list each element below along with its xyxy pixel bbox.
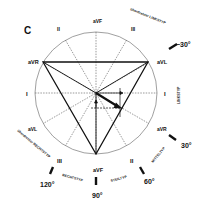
angle-minus30: −30°: [176, 41, 191, 48]
type-mitteltyp: MITTELTYP: [151, 146, 167, 164]
type-steiltyp: STEILTYP: [110, 175, 128, 183]
lead-ii-bottom: II: [130, 158, 134, 164]
lead-iii-bottom: III: [57, 158, 62, 164]
lead-avr: aVR: [28, 59, 39, 65]
lead-i-left: I: [26, 91, 28, 97]
cabrera-circle-diagram: C aVF II III aVR aVL I I aVL aVR III aVF…: [0, 0, 205, 214]
type-rechtstyp: RECHTSTYP: [62, 173, 84, 183]
lead-avl: aVL: [157, 59, 168, 65]
angle-120: 120°: [40, 181, 55, 188]
type-ueberdrehter-rechtstyp: überdrehter RECHTSTYP: [16, 129, 51, 159]
lead-ii-top: II: [57, 26, 60, 32]
lead-avf-top: aVF: [93, 18, 102, 24]
lead-iii-top: III: [131, 26, 136, 32]
angle-30: 30°: [181, 142, 192, 149]
angle-90: 90°: [92, 192, 103, 199]
type-ueberdrehter-linkstyp: überdrehter LINKSTYP: [130, 7, 167, 25]
lead-avf-bottom: aVF: [93, 167, 104, 173]
panel-label: C: [24, 25, 31, 36]
lead-i-right: I: [164, 91, 166, 97]
lead-avr-bottom: aVR: [157, 126, 167, 132]
type-linkstyp: LINKSTYP: [177, 86, 181, 104]
lead-avl-bottom: aVL: [28, 126, 37, 132]
angle-60: 60°: [144, 178, 155, 185]
angle-ticks: [50, 44, 177, 185]
electrical-axis-vector: [96, 93, 117, 106]
